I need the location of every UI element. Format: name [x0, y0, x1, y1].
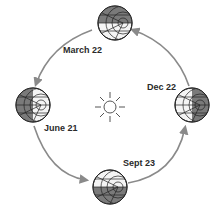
sun-icon [95, 92, 125, 122]
orbit-diagram: March 22 June 21 Sept 23 Dec 22 [0, 0, 221, 213]
label-june: June 21 [44, 123, 78, 133]
arrow-sept-to-dec [128, 128, 185, 183]
arrow-dec-to-march [133, 30, 189, 86]
label-dec: Dec 22 [147, 82, 176, 92]
arrow-march-to-june [36, 30, 92, 84]
label-march: March 22 [63, 45, 102, 55]
globe-june [16, 88, 58, 122]
globe-sept [93, 170, 135, 204]
globe-march [98, 6, 140, 40]
globe-dec [175, 88, 217, 122]
orbit-arrows [34, 30, 189, 183]
label-sept: Sept 23 [123, 158, 155, 168]
orbit-svg [0, 0, 221, 213]
arrow-june-to-sept [34, 126, 86, 180]
